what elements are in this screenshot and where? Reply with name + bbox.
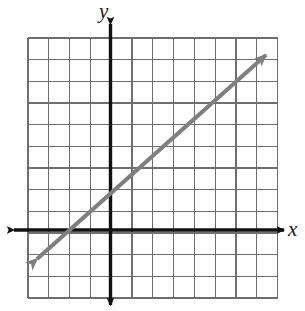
graph-canvas: [0, 0, 305, 311]
x-axis-label: x: [288, 219, 297, 240]
coordinate-plane-figure: y x: [0, 0, 305, 311]
y-axis-label: y: [99, 1, 108, 22]
